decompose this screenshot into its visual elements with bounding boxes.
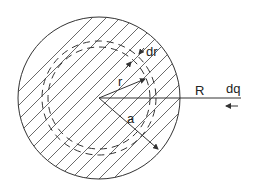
label-a: a (127, 111, 135, 126)
label-R: R (195, 83, 204, 98)
label-dr: dr (146, 44, 158, 59)
dr-arrow-inner (126, 62, 131, 68)
sphere-diagram: dr r a R dq (0, 0, 256, 190)
label-r: r (118, 74, 123, 89)
label-dq: dq (226, 81, 240, 96)
hatching (0, 0, 256, 190)
